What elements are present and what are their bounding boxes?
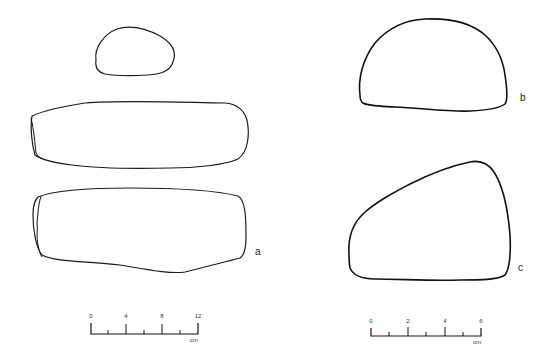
artifact-a-top-view xyxy=(96,27,175,75)
artifact-a-side-view-2 xyxy=(33,188,246,273)
artifact-c-outline xyxy=(349,161,510,280)
artifact-a-side-view-1-edge xyxy=(31,118,41,159)
label-a: a xyxy=(255,246,261,257)
scale-right-tick-4: 4 xyxy=(443,318,446,324)
artifact-b-outline xyxy=(360,19,507,111)
scale-right-tick-6: 6 xyxy=(479,318,482,324)
artifact-a-side-view-1 xyxy=(31,101,248,168)
scale-bar-left xyxy=(91,323,198,334)
scale-right-unit: cm xyxy=(473,339,481,345)
artifact-drawing xyxy=(0,0,549,363)
scale-bar-right xyxy=(371,327,481,336)
scale-right-tick-0: 0 xyxy=(369,318,372,324)
label-b: b xyxy=(520,92,526,103)
scale-left-tick-0: 0 xyxy=(89,313,92,319)
label-c: c xyxy=(518,262,523,273)
scale-right-tick-2: 2 xyxy=(406,318,409,324)
scale-left-unit: cm xyxy=(190,337,198,343)
scale-left-tick-8: 8 xyxy=(160,313,163,319)
scale-left-tick-4: 4 xyxy=(124,313,127,319)
scale-left-tick-12: 12 xyxy=(195,313,202,319)
